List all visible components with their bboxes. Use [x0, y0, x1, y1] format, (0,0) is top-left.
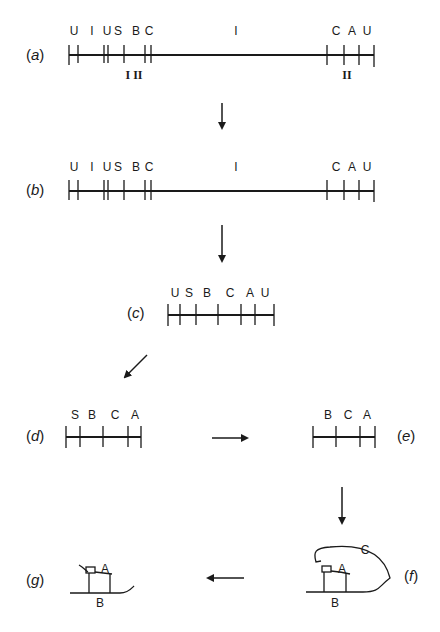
dna-g: [70, 586, 134, 593]
svg-text:S: S: [185, 286, 193, 300]
looped-dna-f: [306, 546, 390, 592]
panel-d-label: (d): [26, 427, 44, 444]
labels-g: A B: [96, 562, 109, 610]
site-labels-d: S B C A: [71, 408, 139, 422]
fragment-mark-left: I II: [125, 68, 142, 82]
svg-text:A: A: [363, 408, 371, 422]
panel-g-label: (g): [26, 571, 44, 588]
svg-text:B: B: [96, 596, 104, 610]
panel-a: (a) U I U S B C I C A U I II II: [26, 24, 374, 82]
svg-text:C: C: [332, 24, 341, 38]
panel-b-label: (b): [26, 181, 44, 198]
fragment-mark-right: II: [342, 68, 352, 82]
panel-e: B C A (e): [313, 408, 415, 448]
svg-text:I: I: [90, 24, 93, 38]
svg-text:A: A: [101, 562, 109, 576]
svg-text:U: U: [363, 24, 372, 38]
svg-text:I: I: [234, 160, 237, 174]
site-labels-c: U S B C A U: [171, 286, 270, 300]
svg-text:B: B: [203, 286, 211, 300]
svg-text:I: I: [90, 160, 93, 174]
svg-text:C: C: [145, 24, 154, 38]
svg-text:I: I: [234, 24, 237, 38]
svg-text:U: U: [70, 160, 79, 174]
svg-text:C: C: [332, 160, 341, 174]
panel-e-label: (e): [397, 427, 415, 444]
panel-a-label: (a): [26, 46, 44, 63]
svg-text:S: S: [114, 160, 122, 174]
svg-text:B: B: [132, 160, 140, 174]
labels-f: C A B: [331, 543, 370, 610]
arrow-diagonal-c-to-d: [125, 355, 147, 377]
panel-d: (d) S B C A: [26, 408, 141, 448]
protein-box-f: [322, 566, 331, 572]
svg-text:S: S: [114, 24, 122, 38]
svg-text:C: C: [344, 408, 353, 422]
svg-text:A: A: [348, 24, 356, 38]
restriction-map-diagram: (a) U I U S B C I C A U I II II (b): [0, 0, 440, 632]
svg-text:S: S: [71, 408, 79, 422]
svg-text:B: B: [88, 408, 96, 422]
site-labels-b: U I U S B C I C A U: [70, 160, 372, 174]
panel-b: (b) U I U S B C I C A U: [26, 160, 374, 202]
svg-text:B: B: [331, 596, 339, 610]
svg-text:B: B: [324, 408, 332, 422]
site-labels-a: U I U S B C I C A U: [70, 24, 372, 38]
svg-text:C: C: [361, 543, 370, 557]
svg-text:B: B: [132, 24, 140, 38]
panel-f-label: (f): [404, 567, 418, 584]
svg-text:U: U: [171, 286, 180, 300]
svg-text:U: U: [363, 160, 372, 174]
svg-text:A: A: [246, 286, 254, 300]
svg-text:C: C: [226, 286, 235, 300]
svg-text:A: A: [131, 408, 139, 422]
svg-text:A: A: [338, 562, 346, 576]
svg-text:U: U: [103, 160, 112, 174]
site-labels-e: B C A: [324, 408, 371, 422]
svg-text:A: A: [348, 160, 356, 174]
panel-c-label: (c): [127, 304, 145, 321]
panel-c: (c) U S B C A U: [127, 286, 274, 326]
svg-text:U: U: [261, 286, 270, 300]
upper-strand-left-g: [79, 565, 88, 572]
svg-text:U: U: [103, 24, 112, 38]
svg-text:C: C: [145, 160, 154, 174]
svg-text:U: U: [70, 24, 79, 38]
panel-f: [306, 546, 390, 592]
svg-text:C: C: [111, 408, 120, 422]
